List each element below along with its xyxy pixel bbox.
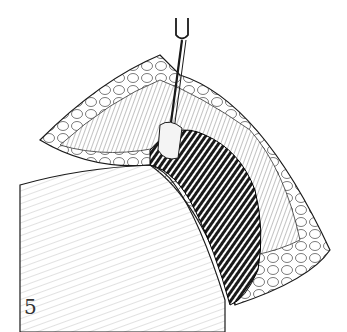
figure-number: 5 — [24, 295, 37, 319]
surgical-illustration — [0, 0, 347, 332]
illustration-canvas: 5 — [0, 0, 347, 332]
